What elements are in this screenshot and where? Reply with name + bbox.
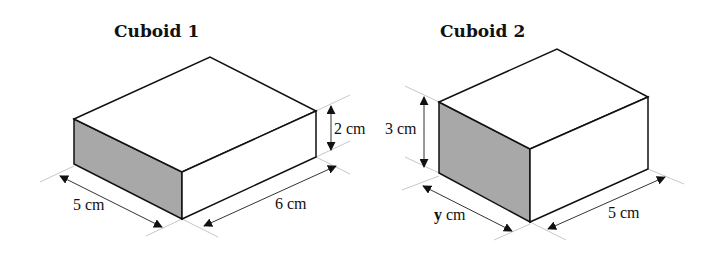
cuboid-1-title: Cuboid 1: [114, 21, 199, 41]
cuboid-2-width-unit: cm: [442, 206, 466, 223]
cuboid-2-length-label: 5 cm: [608, 204, 640, 222]
cuboids-figure: Cuboid 1 5 cm 6 cm 2 cm Cuboid 2 3 cm y …: [0, 0, 703, 256]
cuboid-1-height-label: 2 cm: [334, 120, 366, 138]
cuboid-2-title: Cuboid 2: [440, 21, 525, 41]
cuboid-2-height-label: 3 cm: [385, 120, 417, 138]
cuboid-1-width-label: 5 cm: [73, 196, 105, 214]
cuboid-2-width-variable: y: [434, 206, 442, 223]
cuboid-2-width-label: y cm: [434, 206, 466, 224]
cuboid-1-length-label: 6 cm: [275, 195, 307, 213]
